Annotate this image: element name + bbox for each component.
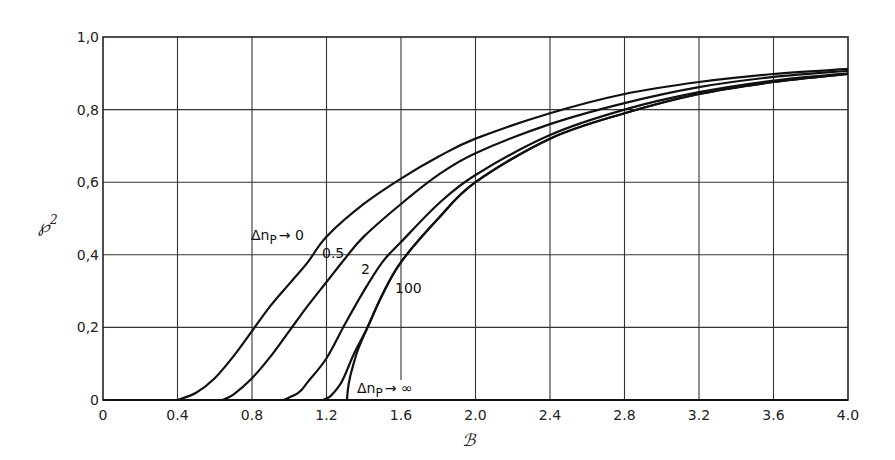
curve-series-3 [323, 74, 848, 400]
x-tick-label: 0.4 [166, 407, 188, 423]
y-tick-label: 0,2 [77, 319, 99, 335]
curve-label-subscript-inf: P [375, 386, 382, 400]
x-axis-ticks: 00.40.81.21.62.02.42.83.23.64.0 [99, 407, 860, 423]
chart: 00.40.81.21.62.02.42.83.23.64.0 00,20,40… [0, 0, 895, 460]
x-tick-label: 1.2 [315, 407, 337, 423]
x-tick-label: 2.4 [539, 407, 561, 423]
x-tick-label: 4.0 [837, 407, 859, 423]
y-tick-label: 0,6 [77, 174, 99, 190]
curve-label-delta-n-inf: Δn [357, 380, 375, 396]
curve-label-delta-n-to-0: ΔnP→ 0 [251, 227, 304, 247]
x-tick-label: 2.0 [464, 407, 486, 423]
curve-series-2 [284, 73, 848, 400]
x-tick-label: 0.8 [241, 407, 263, 423]
x-tick-label: 2.8 [613, 407, 635, 423]
curve-series-1 [222, 71, 848, 400]
curve-label-subscript: P [269, 233, 276, 247]
y-axis-label: ℘2 [38, 213, 58, 236]
x-tick-label: 0 [99, 407, 108, 423]
curve-label-delta-n: Δn [251, 227, 269, 243]
curve-label-100: 100 [395, 280, 422, 296]
y-tick-label: 0,8 [77, 102, 99, 118]
curve-label-arrow-zero: → 0 [279, 227, 304, 243]
x-tick-label: 1.6 [390, 407, 412, 423]
y-tick-label: 0 [90, 392, 99, 408]
y-tick-label: 0,4 [77, 247, 99, 263]
x-tick-label: 3.6 [762, 407, 784, 423]
y-tick-label: 1,0 [77, 29, 99, 45]
curve-label-arrow-infinity: → ∞ [385, 380, 413, 396]
grid-lines [103, 37, 848, 400]
curve-label-2: 2 [361, 261, 370, 277]
x-tick-label: 3.2 [688, 407, 710, 423]
y-axis-ticks: 00,20,40,60,81,0 [77, 29, 99, 408]
curve-series-4 [347, 74, 848, 400]
y-axis-label-superscript: 2 [49, 213, 58, 227]
curve-label-0-5: 0.5 [322, 245, 344, 261]
x-axis-label: ℬ [462, 430, 477, 450]
